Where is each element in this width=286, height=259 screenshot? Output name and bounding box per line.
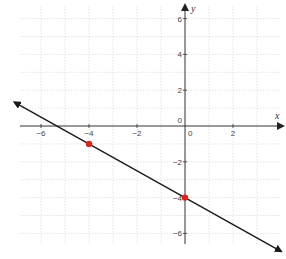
x-tick-label: 0	[188, 129, 193, 138]
x-tick-label: 2	[231, 129, 236, 138]
y-tick-label: 2	[178, 86, 183, 95]
data-point	[182, 194, 188, 200]
y-tick-label: 4	[178, 50, 183, 59]
data-point	[86, 141, 92, 147]
y-tick-label: 6	[178, 15, 183, 24]
line-series	[15, 102, 281, 251]
x-tick-label: −2	[132, 129, 142, 138]
x-tick-label: −4	[84, 129, 94, 138]
axes: xy	[20, 3, 283, 244]
coordinate-plane: xy −6−4−2026420−2−4−6	[0, 0, 286, 259]
y-tick-label: −6	[173, 229, 183, 238]
data-line	[15, 102, 281, 251]
y-tick-label: −2	[173, 158, 183, 167]
grid-lines	[20, 6, 281, 244]
y-axis-label: y	[190, 3, 196, 14]
x-tick-label: −6	[36, 129, 46, 138]
x-axis-label: x	[274, 110, 280, 121]
y-tick-label: 0	[178, 116, 183, 125]
